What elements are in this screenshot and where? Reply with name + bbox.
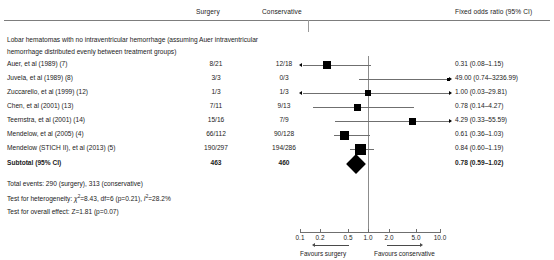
conservative-events: 90/128 (262, 130, 306, 137)
heterogeneity-tail: =28.2% (148, 195, 171, 202)
odds-ratio-value: 0.78 (0.14–4.27) (455, 102, 503, 109)
conservative-events: 0/3 (262, 74, 306, 81)
study-label: Juvela, et al (1989) (8) (7, 74, 73, 81)
conservative-events: 194/286 (262, 144, 306, 151)
favours-surgery-arrow-icon (312, 243, 315, 247)
axis-tick-label: 10.0 (429, 234, 451, 241)
heterogeneity-text: Test for heterogeneity: χ2=8.43, df=6 (p… (7, 194, 171, 202)
study-label: Mendelow (STICH II), et al (2013) (5) (7, 144, 115, 151)
conservative-events: 7/9 (262, 116, 306, 123)
axis-tick-label: 0.1 (289, 234, 311, 241)
axis-tick-label: 0.5 (337, 234, 359, 241)
axis-tick-label: 1.0 (357, 234, 379, 241)
surgery-events: 8/21 (196, 60, 236, 67)
axis-tick (416, 229, 417, 232)
surgery-events: 190/297 (196, 144, 236, 151)
heterogeneity-middle: =8.43, df=6 (p=0.21), (80, 195, 144, 202)
favours-conservative-arrow-icon (420, 243, 423, 247)
favours-surgery-label: Favours surgery (300, 250, 346, 257)
subtotal-surgery-total: 463 (196, 159, 236, 166)
group-heading-line-2: hemorrhage distributed evenly between tr… (7, 48, 176, 55)
axis-tick (320, 229, 321, 232)
header-divider (4, 20, 550, 21)
favours-surgery-arrow-line (315, 245, 349, 246)
forest-plot: Surgery Conservative Fixed odds ratio (9… (0, 0, 554, 260)
odds-ratio-value: 1.00 (0.03–29.81) (455, 88, 507, 95)
plot-column-divider (308, 20, 309, 32)
x-axis-line (300, 232, 441, 233)
subtotal-odds-ratio-value: 0.78 (0.59–1.02) (455, 159, 503, 166)
table-row: Teernstra, et al (2001) (14) 15/16 7/9 4… (0, 116, 554, 128)
subtotal-label: Subtotal (95% CI) (7, 159, 61, 166)
axis-tick (440, 229, 441, 232)
surgery-events: 66/112 (196, 130, 236, 137)
overall-effect-text: Test for overall effect: Z=1.81 (p=0.07) (7, 208, 119, 215)
odds-ratio-value: 0.84 (0.60–1.19) (455, 144, 503, 151)
heterogeneity-prefix: Test for heterogeneity: (7, 195, 74, 202)
axis-tick-label: 0.2 (309, 234, 331, 241)
table-row: Zuccarello, et al (1999) (12) 1/3 1/3 1.… (0, 88, 554, 100)
conservative-events: 12/18 (262, 60, 306, 67)
column-header-odds-ratio: Fixed odds ratio (95% CI) (455, 8, 532, 15)
table-row: Mendelow, et al (2005) (4) 66/112 90/128… (0, 130, 554, 142)
odds-ratio-value: 49.00 (0.74–3236.99) (455, 74, 518, 81)
axis-tick (368, 229, 369, 232)
study-label: Mendelow, et al (2005) (4) (7, 130, 84, 137)
study-label: Teernstra, et al (2001) (14) (7, 116, 85, 123)
axis-tick-label: 2.0 (378, 234, 400, 241)
study-label: Auer, et al (1989) (7) (7, 60, 67, 67)
surgery-events: 7/11 (196, 102, 236, 109)
study-label: Chen, et al (2001) (13) (7, 102, 73, 109)
odds-ratio-value: 0.31 (0.08–1.15) (455, 60, 503, 67)
odds-ratio-value: 4.29 (0.33–55.59) (455, 116, 507, 123)
conservative-events: 9/13 (262, 102, 306, 109)
study-label: Zuccarello, et al (1999) (12) (7, 88, 88, 95)
table-row: Chen, et al (2001) (13) 7/11 9/13 0.78 (… (0, 102, 554, 114)
table-row: Mendelow (STICH II), et al (2013) (5) 19… (0, 144, 554, 156)
odds-ratio-value: 0.61 (0.36–1.03) (455, 130, 503, 137)
axis-tick (300, 229, 301, 232)
group-heading-line-1: Lobar hematomas with no intraventricular… (7, 36, 258, 43)
axis-tick-label: 5.0 (405, 234, 427, 241)
surgery-events: 1/3 (196, 88, 236, 95)
column-header-conservative: Conservative (262, 8, 302, 15)
table-row: Auer, et al (1989) (7) 8/21 12/18 0.31 (… (0, 60, 554, 72)
table-row: Juvela, et al (1989) (8) 3/3 0/3 49.00 (… (0, 74, 554, 86)
surgery-events: 15/16 (196, 116, 236, 123)
favours-conservative-label: Favours conservative (374, 250, 435, 257)
column-header-surgery: Surgery (196, 8, 220, 15)
axis-tick (389, 229, 390, 232)
subtotal-conservative-total: 460 (262, 159, 306, 166)
surgery-events: 3/3 (196, 74, 236, 81)
axis-tick (348, 229, 349, 232)
total-events-text: Total events: 290 (surgery), 313 (conser… (7, 180, 143, 187)
favours-conservative-arrow-line (387, 245, 421, 246)
table-row-subtotal: Subtotal (95% CI) 463 460 0.78 (0.59–1.0… (0, 159, 554, 171)
conservative-events: 1/3 (262, 88, 306, 95)
